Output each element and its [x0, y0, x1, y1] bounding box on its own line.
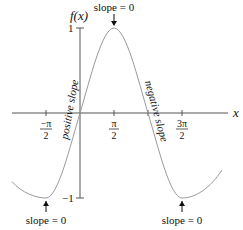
y-axis-label: f(x) [70, 8, 88, 23]
y-tick-label-top: 1 [68, 22, 74, 34]
svg-text:2: 2 [112, 130, 117, 141]
slope-zero-label-left: slope = 0 [26, 214, 67, 226]
arrow-down-icon [111, 14, 117, 26]
svg-text:π: π [111, 118, 116, 129]
svg-text:2: 2 [44, 130, 49, 141]
arrow-up-icon [43, 201, 49, 212]
slope-zero-label-top: slope = 0 [94, 1, 135, 13]
arrow-up-icon [179, 201, 185, 212]
sine-curve-diagram: f(x) x 1 −1 −π 2 π 2 3π 2 slope = 0 slop… [0, 0, 243, 230]
x-axis-label: x [232, 105, 239, 120]
positive-slope-label: positive slope [58, 79, 80, 141]
svg-text:2: 2 [180, 130, 185, 141]
svg-text:3π: 3π [177, 118, 187, 129]
tick-label-neg-half-pi: −π 2 [40, 118, 52, 141]
tick-label-three-half-pi: 3π 2 [176, 118, 188, 141]
tick-label-half-pi: π 2 [109, 118, 119, 141]
svg-text:−π: −π [41, 118, 52, 129]
slope-zero-label-right: slope = 0 [162, 214, 203, 226]
y-tick-label-bottom: −1 [62, 192, 74, 204]
